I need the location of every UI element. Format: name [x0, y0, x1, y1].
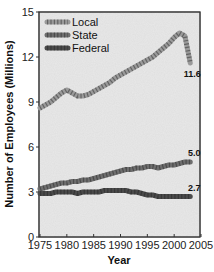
x-tick-label: 2005: [189, 239, 213, 251]
x-tick-label: 1975: [28, 239, 52, 251]
x-tick-label: 2000: [162, 239, 186, 251]
end-value-label: 2.7: [188, 183, 201, 193]
employment-line-chart: 03691215 1975198019851990199520002005 11…: [0, 0, 214, 272]
y-tick-label: 6: [28, 141, 34, 153]
x-axis-title: Year: [107, 254, 131, 266]
end-value-label: 11.6: [184, 69, 201, 79]
legend-label: Federal: [72, 42, 109, 54]
y-tick-label: 12: [22, 51, 34, 63]
y-tick-label: 15: [22, 6, 34, 18]
y-axis-title: Number of Employees (Millions): [3, 40, 15, 208]
y-tick-label: 9: [28, 96, 34, 108]
x-tick-label: 1980: [55, 239, 79, 251]
x-tick-label: 1995: [135, 239, 159, 251]
x-tick-label: 1990: [108, 239, 132, 251]
y-axis: 03691215: [22, 6, 39, 243]
end-value-label: 5.0: [188, 148, 201, 158]
legend-label: Local: [72, 16, 98, 28]
x-tick-label: 1985: [81, 239, 105, 251]
legend-label: State: [72, 29, 98, 41]
y-tick-label: 3: [28, 186, 34, 198]
